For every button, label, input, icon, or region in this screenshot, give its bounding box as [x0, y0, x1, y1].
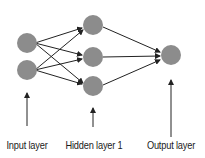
input-layer-nodes	[17, 33, 37, 80]
hidden-layer-label: Hidden layer 1	[65, 139, 122, 151]
output-layer-nodes	[161, 45, 181, 65]
hidden-layer-nodes	[83, 15, 103, 96]
hidden-node-2	[83, 47, 103, 67]
hidden-node-3	[83, 76, 103, 96]
edges-hidden-output	[103, 27, 160, 85]
output-layer-label: Output layer	[147, 139, 195, 151]
input-node-2	[17, 60, 37, 80]
hidden-node-1	[83, 15, 103, 35]
input-layer-label: Input layer	[6, 139, 47, 151]
edges-input-hidden	[35, 28, 83, 84]
neural-network-diagram	[0, 0, 205, 158]
input-node-1	[17, 33, 37, 53]
output-node-1	[161, 45, 181, 65]
